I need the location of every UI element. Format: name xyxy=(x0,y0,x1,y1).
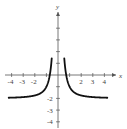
x-tick-label: 3 xyxy=(91,78,95,86)
x-tick-label: -4 xyxy=(8,78,14,86)
x-tick-label: 4 xyxy=(102,78,106,86)
x-axis-arrow-icon xyxy=(112,73,116,77)
axes: xy-4-3-2234-2-3-4 xyxy=(5,3,123,128)
y-tick-label: -3 xyxy=(47,107,53,115)
x-axis-label: x xyxy=(118,72,123,80)
y-tick-label: -4 xyxy=(47,118,53,126)
x-tick-label: -2 xyxy=(31,78,37,86)
y-axis-arrow-icon xyxy=(56,12,60,16)
y-axis-label: y xyxy=(55,3,60,11)
right-branch-curve xyxy=(64,58,107,97)
x-tick-label: -3 xyxy=(19,78,25,86)
function-graph: xy-4-3-2234-2-3-4 xyxy=(0,0,127,129)
y-tick-label: -2 xyxy=(47,95,53,103)
x-tick-label: 2 xyxy=(79,78,83,86)
